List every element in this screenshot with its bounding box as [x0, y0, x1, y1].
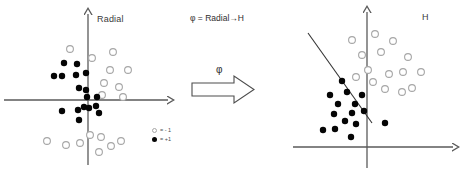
- radial-positive-points: [51, 60, 102, 123]
- radial-panel-title: Radial: [97, 14, 124, 24]
- open-circle-icon: [152, 128, 157, 133]
- h-space-panel: H = - 1 = +1: [290, 0, 466, 172]
- legend-row-negative: = - 1: [152, 126, 171, 135]
- figure-root: Radial = - 1 = +1 φ = Radial→H φ: [0, 0, 466, 172]
- h-negative-points: [349, 31, 425, 96]
- legend-label-positive: = +1: [160, 135, 171, 144]
- legend-row-positive: = +1: [152, 135, 171, 144]
- legend-label-negative: = - 1: [160, 126, 171, 135]
- h-positive-points: [320, 78, 388, 140]
- radial-legend: = - 1 = +1: [152, 126, 171, 144]
- h-panel-title: H: [422, 12, 429, 22]
- mapping-panel: φ = Radial→H φ: [176, 0, 294, 172]
- mapping-arrow-svg: [176, 0, 294, 172]
- block-arrow-icon: [192, 76, 254, 103]
- filled-circle-icon: [152, 137, 157, 142]
- h-plot-svg: [290, 0, 466, 172]
